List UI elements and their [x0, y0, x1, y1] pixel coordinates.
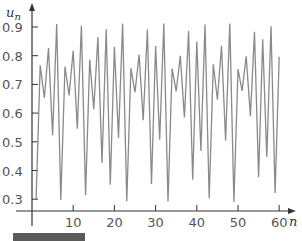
- y-axis-arrow-icon: [29, 3, 35, 11]
- x-axis-label: n: [289, 214, 297, 229]
- x-tick-label: 30: [147, 215, 164, 230]
- data-line: [36, 23, 279, 201]
- x-tick-label: 10: [65, 215, 82, 230]
- y-axis-label: un: [6, 5, 21, 22]
- x-tick-label: 20: [106, 215, 123, 230]
- y-tick-label: 0.7: [2, 77, 23, 92]
- y-tick-label: 0.6: [2, 106, 23, 121]
- x-tick-label: 60: [271, 215, 288, 230]
- x-ticks: 102030405060: [65, 205, 288, 230]
- x-tick-label: 40: [189, 215, 206, 230]
- y-tick-label: 0.9: [2, 20, 23, 35]
- y-tick-label: 0.8: [2, 49, 23, 64]
- chart: 0.30.40.50.60.70.80.9 102030405060 un n: [0, 0, 302, 241]
- y-tick-label: 0.3: [2, 192, 23, 207]
- caption-bar: [13, 233, 85, 241]
- x-tick-label: 50: [230, 215, 247, 230]
- y-tick-label: 0.5: [2, 135, 23, 150]
- y-tick-label: 0.4: [2, 164, 23, 179]
